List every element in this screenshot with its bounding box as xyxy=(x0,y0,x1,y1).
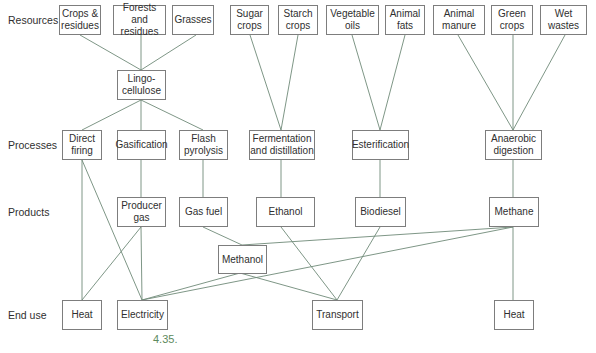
node-transport: Transport xyxy=(312,300,363,330)
node-methanol: Methanol xyxy=(218,245,267,274)
node-lingocellulose: Lingo- cellulose xyxy=(117,70,166,100)
node-starch-crops: Starch crops xyxy=(278,5,318,35)
row-label-end-use: End use xyxy=(8,309,47,321)
node-sugar-crops: Sugar crops xyxy=(230,5,269,35)
row-label-processes: Processes xyxy=(8,139,57,151)
row-label-products: Products xyxy=(8,206,49,218)
node-animal-manure: Animal manure xyxy=(433,5,485,35)
node-crops-residues: Crops & residues xyxy=(59,5,101,35)
node-ethanol: Ethanol xyxy=(256,197,315,227)
node-wet-wastes: Wet wastes xyxy=(540,5,587,35)
row-label-resources: Resources xyxy=(8,14,58,26)
node-electricity: Electricity xyxy=(117,300,168,330)
node-green-crops: Green crops xyxy=(491,5,533,35)
node-gas-fuel: Gas fuel xyxy=(179,197,228,227)
node-methane: Methane xyxy=(489,197,539,227)
node-producer-gas: Producer gas xyxy=(117,197,166,227)
figure-label: 4.35. xyxy=(153,333,177,345)
node-vegetable-oils: Vegetable oils xyxy=(326,5,379,35)
node-heat-left: Heat xyxy=(62,300,102,330)
node-biodiesel: Biodiesel xyxy=(355,197,406,227)
node-direct-firing: Direct firing xyxy=(62,130,102,160)
node-gasification: Gasification xyxy=(117,130,166,160)
node-fermentation-distillation: Fermentation and distillation xyxy=(249,130,315,160)
node-flash-pyrolysis: Flash pyrolysis xyxy=(179,130,228,160)
biomass-conversion-diagram: Resources Processes Products End use Cro… xyxy=(0,0,596,353)
node-forests-residues: Forests and residues xyxy=(113,5,166,35)
node-heat-right: Heat xyxy=(494,300,534,330)
node-anaerobic-digestion: Anaerobic digestion xyxy=(485,130,542,160)
node-esterification: Esterification xyxy=(352,130,409,160)
node-grasses: Grasses xyxy=(172,5,214,35)
node-animal-fats: Animal fats xyxy=(385,5,425,35)
